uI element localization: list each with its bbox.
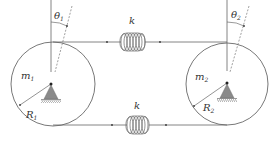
- spring-top-icon: [120, 33, 145, 51]
- disk-right-mass-label: m2: [195, 71, 208, 83]
- disk-left: m1 R1 θ1: [11, 0, 95, 126]
- disk-right: m2 R2 θ2: [186, 0, 268, 125]
- spring-bottom-icon: [126, 116, 149, 134]
- disk-left-angle-label: θ1: [54, 10, 64, 22]
- disk-left-angle-arc: [51, 22, 67, 26]
- disk-left-radius-end: [19, 104, 21, 106]
- disk-left-mass-label: m1: [21, 70, 34, 82]
- cable-top-right-joint: [159, 41, 161, 43]
- disk-left-circle: [11, 42, 95, 126]
- disk-right-radius-label: R2: [202, 102, 215, 114]
- disk-right-pivot-icon: [226, 82, 229, 85]
- disk-right-angle-arrow: [243, 25, 245, 27]
- disk-right-ground-hatch-icon: [217, 99, 237, 102]
- cable-bottom-right-joint: [165, 124, 167, 126]
- spring-top-label: k: [129, 15, 135, 26]
- spring-top-assembly: k: [53, 15, 227, 51]
- two-disk-spring-diagram: m1 R1 θ1 m2 R2 θ2: [0, 0, 279, 154]
- disk-left-radius-label: R1: [25, 109, 37, 121]
- cable-top-left-joint: [106, 41, 108, 43]
- disk-left-angle-arrow: [66, 25, 68, 27]
- spring-bottom-label: k: [134, 100, 140, 111]
- disk-right-radius-end: [193, 105, 195, 107]
- cable-bottom-left-joint: [111, 124, 113, 126]
- disk-right-angle-label: θ2: [231, 9, 241, 21]
- disk-left-pivot-icon: [50, 83, 53, 86]
- disk-right-angle-arc: [227, 22, 244, 26]
- disk-left-ground-hatch-icon: [41, 100, 61, 103]
